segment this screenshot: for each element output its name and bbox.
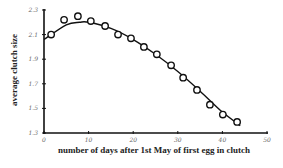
x-tick-label: 10	[85, 136, 93, 143]
chart: 1.31.51.71.92.12.3 01020304050 number of…	[0, 0, 283, 168]
data-point-marker	[220, 111, 226, 117]
y-tick-label: 1.3	[28, 129, 38, 136]
y-tick-label: 2.3	[27, 6, 38, 13]
x-tick-label: 20	[128, 136, 137, 143]
data-point-marker	[154, 51, 160, 57]
fitted-curve	[44, 22, 240, 126]
y-axis-title: average clutch size	[9, 34, 19, 106]
data-point-marker	[61, 17, 67, 23]
data-point-marker	[115, 31, 121, 37]
data-point-marker	[88, 18, 94, 24]
y-tick-label: 1.5	[28, 104, 38, 111]
data-point-marker	[194, 87, 200, 93]
y-tick-label: 1.7	[28, 80, 38, 87]
x-axis-title: number of days after 1st May of first eg…	[58, 145, 250, 155]
x-tick-label: 50	[263, 136, 271, 143]
x-tick-label: 30	[174, 136, 182, 143]
y-tick-label: 1.9	[28, 55, 38, 62]
data-point-marker	[141, 44, 147, 50]
data-point-marker	[234, 119, 240, 125]
y-tick-label: 2.1	[27, 31, 38, 38]
data-point-marker	[180, 74, 186, 80]
data-point-marker	[48, 31, 54, 37]
data-point-marker	[207, 102, 213, 108]
x-tick-label: 0	[42, 136, 46, 143]
x-tick-label: 40	[218, 136, 227, 143]
data-point-marker	[102, 23, 108, 29]
data-point-marker	[128, 35, 134, 41]
data-point-marker	[75, 13, 81, 19]
data-points	[48, 13, 240, 125]
data-point-marker	[168, 62, 174, 68]
